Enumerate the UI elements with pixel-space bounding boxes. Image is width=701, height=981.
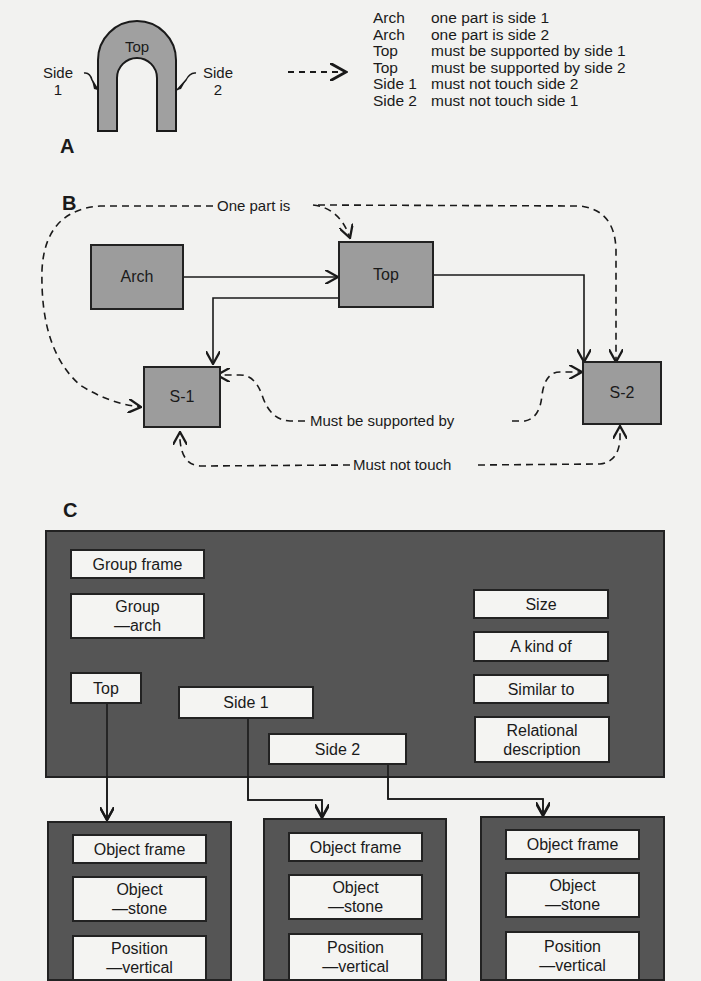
group-arch-line2: —arch <box>114 616 161 635</box>
position-line2: —vertical <box>539 956 606 975</box>
object-frame-2-title: Object frame <box>288 832 423 862</box>
object-line2: —stone <box>545 895 600 914</box>
panel-b-letter: B <box>62 192 76 215</box>
object-line1: Object <box>116 880 162 899</box>
rule-subject: Side 1 <box>373 76 431 93</box>
side2-label-line1: Side <box>196 64 240 81</box>
side1-label-line1: Side <box>36 64 80 81</box>
rule-predicate: must not touch side 1 <box>431 93 578 110</box>
object-line1: Object <box>549 876 595 895</box>
edge-label-must-be-supported-by: Must be supported by <box>307 412 457 429</box>
object-line1: Object <box>332 878 378 897</box>
rule-row: Side 2must not touch side 1 <box>373 93 626 110</box>
part-side2-slot: Side 2 <box>268 733 407 765</box>
slot-similar-to: Similar to <box>473 674 609 704</box>
node-s1: S-1 <box>143 366 221 428</box>
rule-row: Archone part is side 1 <box>373 10 626 27</box>
side2-label-line2: 2 <box>196 81 240 98</box>
part-top-slot: Top <box>70 672 142 704</box>
group-arch-line1: Group <box>115 597 159 616</box>
rule-subject: Side 2 <box>373 93 431 110</box>
rule-predicate: must be supported by side 2 <box>431 60 626 77</box>
node-s2: S-2 <box>582 361 662 425</box>
position-line2: —vertical <box>106 958 173 977</box>
node-top: Top <box>338 241 434 308</box>
edge-label-must-not-touch: Must not touch <box>350 456 454 473</box>
group-arch-slot: Group —arch <box>70 593 205 639</box>
side1-label: Side 1 <box>36 64 80 98</box>
object-frame-2-position: Position —vertical <box>288 933 423 981</box>
node-arch: Arch <box>90 244 184 310</box>
relational-line2: description <box>503 740 580 759</box>
slot-relational-description: Relational description <box>474 716 610 763</box>
side1-label-line2: 1 <box>36 81 80 98</box>
rule-list: Archone part is side 1 Archone part is s… <box>373 10 626 109</box>
object-frame-3-title: Object frame <box>505 829 640 860</box>
object-frame-3-object: Object —stone <box>505 872 640 918</box>
object-frame-2-object: Object —stone <box>288 874 423 920</box>
rule-subject: Top <box>373 60 431 77</box>
slot-size: Size <box>473 589 609 619</box>
rule-subject: Arch <box>373 27 431 44</box>
rule-row: Topmust be supported by side 1 <box>373 43 626 60</box>
panel-c-letter: C <box>63 499 77 522</box>
rule-subject: Top <box>373 43 431 60</box>
group-frame-title: Group frame <box>70 549 205 579</box>
position-line1: Position <box>544 937 601 956</box>
rule-predicate: one part is side 2 <box>431 27 549 44</box>
object-frame-3-position: Position —vertical <box>505 931 640 981</box>
position-line2: —vertical <box>322 957 389 976</box>
rule-predicate: must not touch side 2 <box>431 76 578 93</box>
object-line2: —stone <box>328 897 383 916</box>
relational-line1: Relational <box>506 721 577 740</box>
edge-label-one-part-is: One part is <box>214 197 293 214</box>
position-line1: Position <box>111 939 168 958</box>
rule-row: Topmust be supported by side 2 <box>373 60 626 77</box>
side2-label: Side 2 <box>196 64 240 98</box>
slot-a-kind-of: A kind of <box>473 631 609 662</box>
arch-top-label: Top <box>115 38 159 55</box>
rule-predicate: must be supported by side 1 <box>431 43 626 60</box>
rule-predicate: one part is side 1 <box>431 10 549 27</box>
panel-a-letter: A <box>60 135 74 158</box>
object-frame-1-title: Object frame <box>72 834 207 864</box>
part-side1-slot: Side 1 <box>178 686 314 719</box>
object-frame-1-object: Object —stone <box>72 876 207 922</box>
rule-subject: Arch <box>373 10 431 27</box>
object-line2: —stone <box>112 899 167 918</box>
position-line1: Position <box>327 938 384 957</box>
rule-row: Archone part is side 2 <box>373 27 626 44</box>
object-frame-1-position: Position —vertical <box>72 935 207 981</box>
rule-row: Side 1must not touch side 2 <box>373 76 626 93</box>
